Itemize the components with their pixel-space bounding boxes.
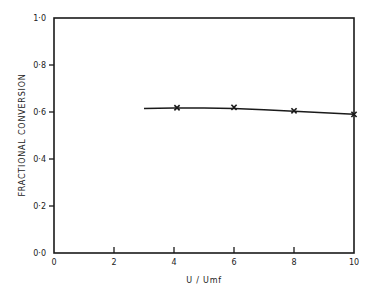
y-tick-label: 0·8	[33, 61, 46, 70]
x-tick-label: 0	[51, 258, 56, 267]
x-tick-label: 6	[231, 258, 236, 267]
y-tick-label: 0·4	[33, 155, 46, 164]
y-tick-label: 0·0	[33, 249, 46, 258]
chart: 0·00·20·40·60·81·0 0246810 U / Umf FRACT…	[0, 0, 378, 289]
y-tick-label: 0·2	[33, 202, 46, 211]
y-tick-label: 1·0	[33, 14, 46, 23]
x-axis-title: U / Umf	[186, 276, 222, 285]
x-tick-label: 4	[171, 258, 176, 267]
data-markers	[174, 105, 356, 117]
x-axis: 0246810	[51, 247, 359, 267]
plot-frame	[54, 18, 354, 253]
y-tick-label: 0·6	[33, 108, 46, 117]
y-axis-title: FRACTIONAL CONVERSION	[18, 73, 27, 196]
y-axis: 0·00·20·40·60·81·0	[33, 14, 54, 258]
x-tick-label: 2	[111, 258, 116, 267]
x-tick-label: 8	[291, 258, 296, 267]
x-tick-label: 10	[349, 258, 359, 267]
